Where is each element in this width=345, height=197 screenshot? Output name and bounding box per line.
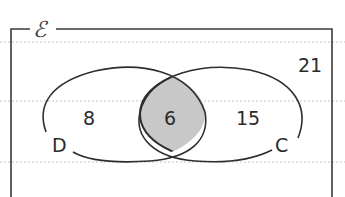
- outside-count: 21: [298, 54, 322, 76]
- venn-diagram: ℰ 8 6 15 21 D C: [0, 0, 345, 197]
- set-c-label: C: [275, 134, 288, 156]
- d-only-count: 8: [83, 107, 95, 129]
- c-only-count: 15: [236, 107, 260, 129]
- universal-set-symbol: ℰ: [33, 17, 49, 42]
- set-d-label: D: [52, 134, 67, 156]
- intersection-count: 6: [164, 107, 176, 129]
